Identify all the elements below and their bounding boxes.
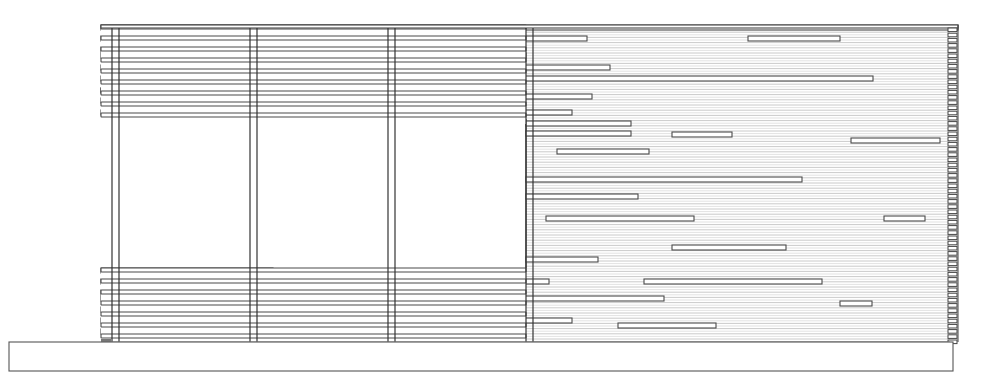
board: [672, 245, 786, 250]
board-end-cap: [948, 241, 957, 245]
board-end-cap: [948, 153, 957, 157]
rail-board: [101, 279, 526, 283]
board-end-cap: [948, 142, 957, 146]
board-end-cap: [948, 101, 957, 105]
board-end-cap: [948, 111, 957, 115]
board-end-cap: [948, 127, 957, 131]
base-plinth-rect: [9, 342, 953, 371]
board-end-cap: [948, 267, 957, 271]
board: [618, 323, 716, 328]
board-end-cap: [948, 54, 957, 58]
board-end-cap: [948, 262, 957, 266]
rail-board: [101, 334, 526, 338]
board: [526, 121, 631, 126]
board: [840, 301, 872, 306]
board-end-cap: [948, 96, 957, 100]
board-end-cap: [948, 200, 957, 204]
rail-board: [101, 69, 526, 73]
board: [546, 216, 694, 221]
board-end-cap: [948, 64, 957, 68]
board-end-cap: [948, 246, 957, 250]
elevation-drawing: [0, 0, 981, 386]
rail-board: [101, 323, 526, 327]
board: [526, 131, 631, 136]
board: [526, 177, 802, 182]
rail-board: [101, 58, 526, 62]
board-end-cap: [948, 70, 957, 74]
board: [557, 149, 649, 154]
rail-board: [101, 301, 526, 305]
right-end-caps: [948, 25, 958, 344]
board-end-cap: [948, 33, 957, 37]
board-end-cap: [948, 148, 957, 152]
board-end-cap: [948, 116, 957, 120]
board-end-cap: [948, 215, 957, 219]
board-end-cap: [948, 252, 957, 256]
board-end-cap: [948, 194, 957, 198]
board-end-cap: [948, 330, 957, 334]
board-end-cap: [948, 137, 957, 141]
rail-board: [101, 80, 526, 84]
top-rail: [101, 25, 958, 28]
board-end-cap: [948, 283, 957, 287]
rail-board: [101, 102, 526, 106]
board-end-cap: [948, 106, 957, 110]
board: [884, 216, 925, 221]
board-end-cap: [948, 272, 957, 276]
board-end-cap: [948, 184, 957, 188]
board-end-cap: [948, 80, 957, 84]
board-end-cap: [948, 288, 957, 292]
board-end-cap: [948, 59, 957, 63]
board-end-cap: [948, 90, 957, 94]
board-end-cap: [948, 210, 957, 214]
board-end-cap: [948, 220, 957, 224]
opening-fill: [101, 119, 526, 268]
board-end-cap: [948, 309, 957, 313]
board-end-cap: [948, 168, 957, 172]
board: [526, 257, 598, 262]
board-end-cap: [948, 324, 957, 328]
board-end-cap: [948, 174, 957, 178]
board-end-cap: [948, 314, 957, 318]
board-end-cap: [948, 298, 957, 302]
board: [644, 279, 822, 284]
board: [851, 138, 940, 143]
board-end-cap: [948, 163, 957, 167]
window-opening: [101, 119, 526, 268]
board: [672, 132, 732, 137]
board-end-cap: [948, 304, 957, 308]
rail-board: [101, 268, 526, 272]
rail-board: [101, 312, 526, 316]
board-end-cap: [948, 122, 957, 126]
board-end-cap: [948, 293, 957, 297]
rail-board: [101, 91, 526, 95]
rail-board: [101, 113, 526, 117]
elevation-canvas: [0, 0, 981, 386]
board-end-cap: [948, 75, 957, 79]
board-end-cap: [948, 231, 957, 235]
board-end-cap: [948, 335, 957, 339]
rail-board: [101, 290, 526, 294]
board-end-cap: [948, 236, 957, 240]
board-end-cap: [948, 44, 957, 48]
board: [748, 36, 840, 41]
board-end-cap: [948, 158, 957, 162]
base-plinth: [9, 339, 953, 371]
rail-board: [101, 47, 526, 51]
board-end-cap: [948, 257, 957, 261]
board-end-cap: [948, 319, 957, 323]
board-end-cap: [948, 85, 957, 89]
board-end-cap: [948, 28, 957, 32]
board-end-cap: [948, 132, 957, 136]
board: [526, 194, 638, 199]
board-end-cap: [948, 278, 957, 282]
rail-board: [101, 36, 526, 40]
board-end-cap: [948, 49, 957, 53]
board-end-cap: [948, 226, 957, 230]
board-end-cap: [948, 179, 957, 183]
board-end-cap: [948, 38, 957, 42]
board-end-cap: [948, 189, 957, 193]
board-end-cap: [948, 205, 957, 209]
